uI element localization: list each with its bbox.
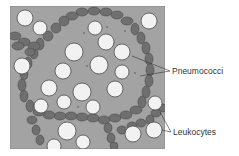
pneumococci-label: Pneumococci <box>172 66 223 76</box>
leukocytes-label: Leukocytes <box>173 127 216 137</box>
